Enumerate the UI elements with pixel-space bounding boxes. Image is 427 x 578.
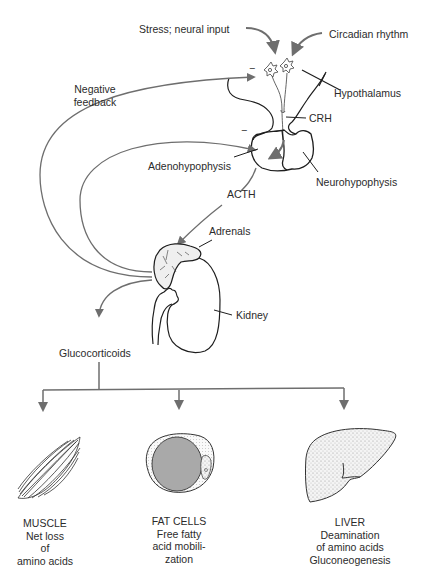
glucocorticoids-label: Glucocorticoids [59, 347, 131, 360]
neurohypophysis-label: Neurohypophysis [316, 176, 397, 189]
liver-icon [305, 429, 395, 502]
neuron-icon [264, 58, 294, 140]
fat-cells-caption: FAT CELLS Free fatty acid mobili- zation [152, 515, 206, 565]
muscle-caption: MUSCLE Net loss of amino acids [17, 517, 73, 567]
hypothalamus-label: Hypothalamus [334, 87, 401, 100]
minus-sign-pituitary: − [241, 124, 247, 137]
cropped-header [296, 0, 427, 2]
hpa-axis-diagram: Stress; neural input Circadian rhythm Ne… [0, 0, 427, 578]
minus-sign-hypothalamus: − [249, 62, 255, 75]
liver-caption: LIVER Deamination of amino acids Glucone… [309, 516, 390, 566]
crh-label: CRH [309, 112, 332, 125]
target-name: FAT CELLS [152, 515, 206, 528]
stress-label: Stress; neural input [139, 23, 229, 36]
circadian-rhythm-label: Circadian rhythm [329, 28, 408, 41]
circadian-arrow [293, 33, 322, 54]
target-name: LIVER [309, 516, 390, 529]
kidney-label: Kidney [236, 309, 268, 322]
negative-feedback-label: Negative feedback [74, 83, 117, 108]
crh-arrow [270, 140, 284, 158]
fat-cell-icon [146, 434, 214, 493]
leader-lines [199, 117, 318, 315]
adenohypophysis-label: Adenohypophysis [148, 160, 231, 173]
distribution-tree [43, 362, 344, 410]
glucocorticoids-arrow [99, 280, 152, 316]
pituitary-outline [251, 130, 313, 171]
adrenal-gland [154, 244, 201, 289]
target-name: MUSCLE [17, 517, 73, 530]
adrenals-label: Adrenals [209, 225, 250, 238]
stress-arrow [246, 28, 275, 52]
negative-feedback-arrow-hypothalamus [40, 77, 254, 277]
acth-label: ACTH [227, 188, 256, 201]
muscle-icon [18, 437, 80, 498]
